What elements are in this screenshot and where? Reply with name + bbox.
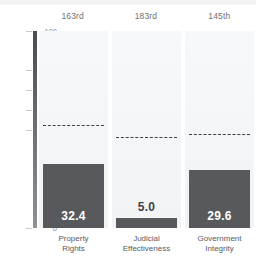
column-judicial-effectiveness: 5.0 — [112, 31, 181, 228]
bar-judicial-effectiveness[interactable] — [116, 218, 177, 228]
bar-property-rights[interactable]: 32.4 — [43, 164, 104, 228]
category-line-2: Effectiveness — [123, 244, 170, 253]
y-axis-tick-mark-80 — [26, 70, 32, 71]
y-axis-tick-mark-50 — [26, 130, 32, 131]
y-axis-tick-mark-70 — [26, 90, 32, 91]
category-line-1: Property — [58, 234, 88, 243]
column-group: 32.4 5.0 29.6 — [39, 31, 254, 228]
column-property-rights: 32.4 — [39, 31, 108, 228]
category-label-property-rights: PropertyRights — [39, 234, 108, 260]
category-line-2: Integrity — [205, 244, 233, 253]
category-label-government-integrity: GovernmentIntegrity — [185, 234, 254, 260]
rank-header-row: 163rd 183rd 145th — [36, 8, 256, 24]
rank-label-government-integrity: 145th — [183, 8, 256, 24]
category-line-2: Rights — [62, 244, 85, 253]
category-label-row: PropertyRights JudicialEffectiveness Gov… — [39, 234, 254, 260]
plot-area: 100807060500 32.4 5.0 29.6 — [0, 28, 256, 231]
top-divider-strip — [0, 0, 256, 5]
column-government-integrity: 29.6 — [185, 31, 254, 228]
indicator-bar-chart: 163rd 183rd 145th 100807060500 32.4 5.0 — [0, 0, 256, 260]
y-axis-tick-mark-60 — [26, 110, 32, 111]
reference-line-property-rights — [43, 125, 104, 126]
bar-value-judicial-effectiveness: 5.0 — [112, 200, 181, 214]
bar-value-property-rights: 32.4 — [43, 209, 104, 223]
bar-value-government-integrity: 29.6 — [189, 209, 250, 223]
bar-government-integrity[interactable]: 29.6 — [189, 170, 250, 228]
category-line-1: Judicial — [133, 234, 160, 243]
category-line-1: Government — [197, 234, 241, 243]
rank-label-property-rights: 163rd — [36, 8, 109, 24]
reference-line-judicial-effectiveness — [116, 137, 177, 138]
category-label-judicial-effectiveness: JudicialEffectiveness — [112, 234, 181, 260]
y-axis-tick-mark-0 — [26, 228, 32, 229]
rank-label-judicial-effectiveness: 183rd — [109, 8, 182, 24]
y-axis-tick-mark-100 — [26, 31, 32, 32]
reference-line-government-integrity — [189, 134, 250, 135]
